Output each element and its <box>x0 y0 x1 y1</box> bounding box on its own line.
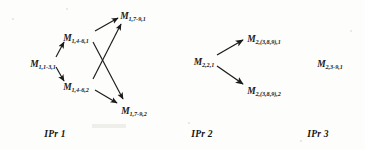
edge-n2-n4 <box>95 18 118 31</box>
node-subscript: 2,3-9,1 <box>326 63 343 70</box>
figure-canvas: M1,1-3,1 M1,4-6,1 M1,4-6,2 M1,7-9,1 M1,7… <box>0 0 365 150</box>
edge-m1-m3 <box>217 66 243 84</box>
scan-artifact <box>66 8 68 10</box>
group-caption-ipr3: IPr 3 <box>307 129 328 139</box>
group-caption-ipr2: IPr 2 <box>191 129 212 139</box>
node-subscript: 2,2,1 <box>202 61 214 68</box>
node-label: M1,7-9,2 <box>121 101 146 117</box>
scan-artifact <box>300 140 302 142</box>
edge-m1-m2 <box>217 40 243 55</box>
node-subscript: 1,4-6,2 <box>72 86 89 93</box>
edge-n3-n4 <box>93 24 121 79</box>
node-subscript: 1,7-9,1 <box>129 15 146 22</box>
node-subscript: 1,4-6,1 <box>72 37 89 44</box>
edge-n1-n2 <box>56 42 64 57</box>
scan-artifact <box>92 124 126 128</box>
scan-artifact <box>12 18 14 20</box>
node-label: M1,7-9,1 <box>120 6 145 22</box>
node-subscript: 1,7-9,2 <box>130 110 147 117</box>
node-label: M1,4-6,1 <box>63 28 88 44</box>
node-subscript: 2,(3,8,9),1 <box>256 38 281 45</box>
node-label: M2,(3,8,9),2 <box>247 81 281 97</box>
edge-n3-n5 <box>95 90 117 103</box>
scan-artifact <box>350 30 352 32</box>
arrow-layer <box>0 0 365 150</box>
node-label: M2,3-9,1 <box>317 54 342 70</box>
node-subscript: 1,1-3,1 <box>39 63 56 70</box>
node-subscript: 2,(3,8,9),2 <box>256 90 281 97</box>
node-label: M1,1-3,1 <box>30 54 55 70</box>
scan-artifact <box>188 122 190 124</box>
node-label: M2,(3,8,9),1 <box>247 29 281 45</box>
group-caption-ipr1: IPr 1 <box>44 129 65 139</box>
node-label: M1,4-6,2 <box>63 77 88 93</box>
node-label: M2,2,1 <box>194 52 214 68</box>
